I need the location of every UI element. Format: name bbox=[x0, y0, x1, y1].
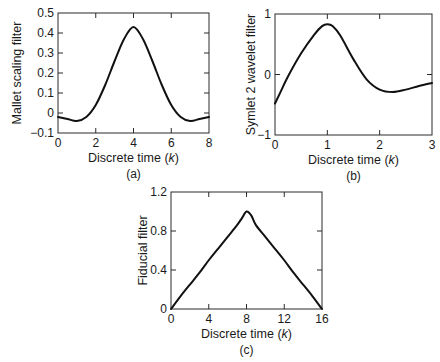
data-line bbox=[171, 211, 322, 309]
plot-frame bbox=[275, 14, 432, 135]
chart-c: 048121600.40.81.2Discrete time (k)Fiduci… bbox=[136, 185, 329, 357]
plot-frame bbox=[171, 192, 322, 309]
x-tick-label: 4 bbox=[130, 136, 137, 150]
data-line bbox=[275, 24, 432, 103]
x-axis-label: Discrete time (k) bbox=[308, 153, 399, 167]
chart-a: 02468−0.100.10.20.30.40.5Discrete time (… bbox=[10, 6, 213, 181]
y-tick-label: 0.1 bbox=[37, 86, 54, 100]
y-tick-label: 0 bbox=[160, 302, 167, 316]
x-tick-label: 12 bbox=[278, 312, 292, 326]
x-tick-label: 1 bbox=[324, 138, 331, 152]
x-tick-label: 6 bbox=[168, 136, 175, 150]
figure: 02468−0.100.10.20.30.40.5Discrete time (… bbox=[0, 0, 440, 362]
y-tick-label: 0.3 bbox=[37, 46, 54, 60]
x-tick-label: 0 bbox=[272, 138, 279, 152]
panel-caption: (a) bbox=[126, 167, 141, 181]
x-axis-label: Discrete time (k) bbox=[88, 151, 179, 165]
x-tick-label: 3 bbox=[429, 138, 436, 152]
x-tick-label: 4 bbox=[205, 312, 212, 326]
y-axis-label: Mallet scaling filter bbox=[10, 22, 24, 125]
y-axis-label: Symlet 2 wavelet filter bbox=[244, 14, 258, 136]
y-tick-label: 0.5 bbox=[37, 6, 54, 20]
chart-b: 0123−101Discrete time (k)Symlet 2 wavele… bbox=[244, 7, 436, 183]
x-tick-label: 0 bbox=[168, 312, 175, 326]
y-tick-label: −0.1 bbox=[30, 126, 54, 140]
x-tick-label: 0 bbox=[55, 136, 62, 150]
y-tick-label: 1 bbox=[264, 7, 271, 21]
x-tick-label: 8 bbox=[243, 312, 250, 326]
x-tick-label: 8 bbox=[206, 136, 213, 150]
x-tick-label: 2 bbox=[92, 136, 99, 150]
y-tick-label: 0.4 bbox=[37, 26, 54, 40]
panel-caption: (c) bbox=[240, 343, 254, 357]
y-tick-label: 0.4 bbox=[150, 263, 167, 277]
y-tick-label: 1.2 bbox=[150, 185, 167, 199]
plot-frame bbox=[58, 13, 209, 133]
x-axis-label: Discrete time (k) bbox=[201, 327, 292, 341]
y-tick-label: 0 bbox=[47, 106, 54, 120]
data-line bbox=[58, 27, 209, 121]
x-tick-label: 16 bbox=[315, 312, 329, 326]
y-tick-label: 0 bbox=[264, 68, 271, 82]
y-tick-label: −1 bbox=[257, 128, 271, 142]
x-tick-label: 2 bbox=[376, 138, 383, 152]
y-tick-label: 0.2 bbox=[37, 66, 54, 80]
y-axis-label: Fiducial filter bbox=[136, 215, 150, 285]
panel-caption: (b) bbox=[346, 169, 361, 183]
y-tick-label: 0.8 bbox=[150, 224, 167, 238]
